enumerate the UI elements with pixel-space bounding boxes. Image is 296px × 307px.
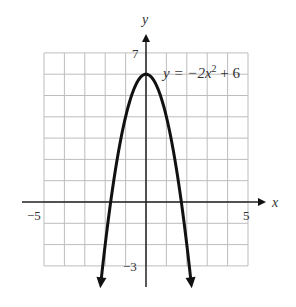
right-arrow-icon — [186, 277, 196, 288]
y-tick-neg3: −3 — [123, 259, 137, 274]
equation-label: y = −2x2 + 6 — [161, 63, 241, 81]
parabola-chart: y x 7 −3 −5 5 y = −2x2 + 6 — [0, 0, 296, 307]
x-tick-neg5: −5 — [27, 208, 41, 223]
x-tick-5: 5 — [243, 208, 250, 223]
left-arrow-icon — [96, 277, 106, 288]
y-tick-7: 7 — [132, 46, 139, 61]
y-axis-label: y — [140, 12, 149, 27]
x-axis-label: x — [271, 195, 279, 210]
